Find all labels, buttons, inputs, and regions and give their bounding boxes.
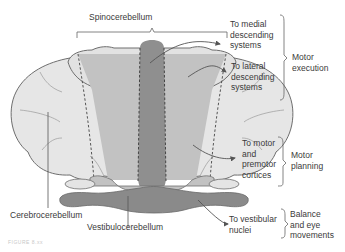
- function-line: and eye: [290, 220, 334, 231]
- target-line: To vestibular: [229, 214, 277, 225]
- function-line: Balance: [290, 209, 334, 220]
- function-line: Motor: [291, 150, 323, 161]
- target-lateral-descending: To lateral descending systems: [231, 61, 274, 93]
- target-line: nuclei: [229, 225, 277, 236]
- target-line: cortices: [242, 170, 276, 181]
- vermis: [138, 40, 166, 196]
- target-line: premotor: [242, 159, 276, 170]
- target-line: To medial: [230, 19, 273, 30]
- function-line: movements: [290, 230, 334, 241]
- vestibulocerebellum-label: Vestibulocerebellum: [87, 222, 163, 233]
- target-line: descending: [230, 30, 273, 41]
- function-motor-execution: Motor execution: [292, 52, 328, 73]
- target-line: descending: [231, 72, 274, 83]
- target-line: systems: [231, 82, 274, 93]
- cerebrocerebellum-label: Cerebrocerebellum: [10, 210, 82, 221]
- target-medial-descending: To medial descending systems: [230, 19, 273, 51]
- spinocerebellum-label: Spinocerebellum: [89, 12, 152, 23]
- target-line: To motor: [242, 138, 276, 149]
- flocculus-right: [209, 179, 239, 189]
- function-motor-planning: Motor planning: [291, 150, 323, 171]
- figure-caption: FIGURE 8.xx: [8, 239, 43, 245]
- target-vestibular-nuclei: To vestibular nuclei: [229, 214, 277, 235]
- flocculonodular-lobe: [60, 187, 249, 214]
- function-balance-eye: Balance and eye movements: [290, 209, 334, 241]
- flocculus-left: [65, 179, 95, 189]
- target-line: and: [242, 149, 276, 160]
- function-line: execution: [292, 63, 328, 74]
- target-motor-cortices: To motor and premotor cortices: [242, 138, 276, 180]
- target-line: To lateral: [231, 61, 274, 72]
- function-line: planning: [291, 161, 323, 172]
- target-line: systems: [230, 40, 273, 51]
- function-line: Motor: [292, 52, 328, 63]
